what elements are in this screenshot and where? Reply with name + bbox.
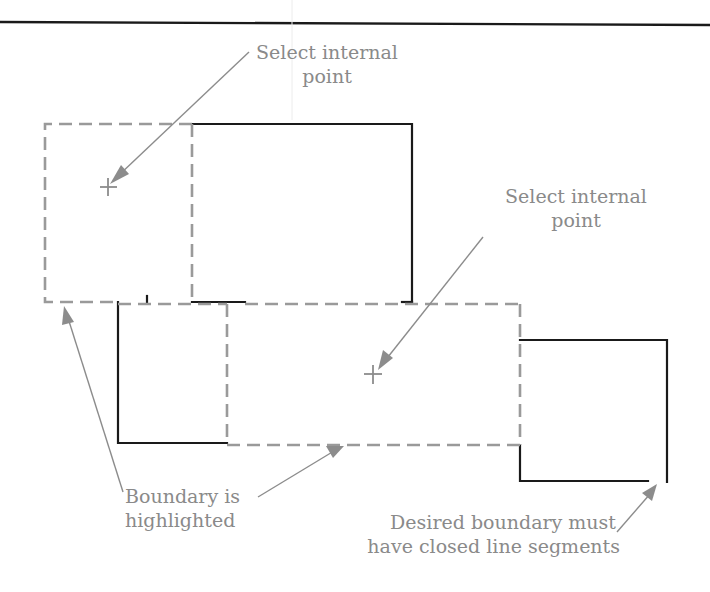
- leader-arrow-select-point-1: [110, 52, 249, 184]
- label-line: highlighted: [125, 508, 240, 532]
- label-boundary-highlighted: Boundary is highlighted: [125, 484, 240, 532]
- label-line: Select internal: [252, 40, 402, 64]
- label-select-internal-point-1: Select internal point: [252, 40, 402, 88]
- highlighted-boundary-left: [45, 124, 192, 302]
- boundary-diagram: [0, 0, 710, 592]
- label-line: have closed line segments: [330, 534, 620, 558]
- label-line: point: [496, 208, 656, 232]
- leader-arrow-desired-boundary: [617, 484, 657, 532]
- highlighted-boundary-center: [118, 302, 520, 445]
- leader-arrow-boundary-bottom: [258, 446, 344, 497]
- label-desired-boundary: Desired boundary must have closed line s…: [330, 510, 616, 558]
- label-line: Desired boundary must: [330, 510, 616, 534]
- upper-right-box: [192, 124, 412, 302]
- top-rule: [0, 22, 710, 25]
- label-line: point: [252, 64, 402, 88]
- label-line: Boundary is: [125, 484, 240, 508]
- label-line: Select internal: [496, 184, 656, 208]
- lower-left-box: [118, 296, 227, 443]
- leader-arrow-boundary-left: [62, 306, 123, 492]
- open-right-box: [520, 340, 667, 482]
- label-select-internal-point-2: Select internal point: [496, 184, 656, 232]
